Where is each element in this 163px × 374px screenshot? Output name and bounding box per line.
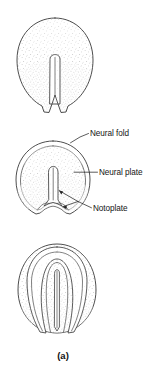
panel-middle-embryo [16, 141, 90, 214]
figure-panel-a: Neural fold Neural plate Notoplate (a) [0, 0, 163, 374]
label-neural-plate: Neural plate [99, 168, 143, 177]
figure-caption: (a) [57, 350, 69, 361]
panel-bottom-embryo [17, 244, 97, 336]
panel-top-embryo [13, 16, 97, 113]
label-notoplate: Notoplate [93, 204, 128, 213]
neurulation-diagram: Neural fold Neural plate Notoplate (a) [0, 0, 163, 374]
label-neural-fold: Neural fold [90, 129, 130, 138]
leader-neural-fold [71, 134, 89, 143]
